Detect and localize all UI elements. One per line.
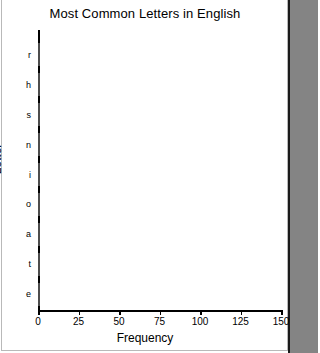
x-tick-label: 75: [154, 316, 165, 327]
x-tick: [160, 310, 162, 315]
x-tick-label: 50: [113, 316, 124, 327]
bar-row: r: [38, 43, 135, 66]
bar-row: h: [38, 73, 137, 96]
y-tick-label: o: [26, 199, 31, 209]
right-gutter[interactable]: [290, 0, 320, 353]
y-tick-label: n: [26, 140, 31, 150]
y-tick-label: h: [26, 80, 31, 90]
chart-title: Most Common Letters in English: [0, 6, 290, 21]
x-tick: [200, 310, 202, 315]
bar: [38, 163, 40, 186]
y-axis-title: Letter: [0, 144, 4, 175]
bar-row: s: [38, 103, 138, 126]
y-tick-label: t: [28, 259, 31, 269]
x-tick-label: 150: [273, 316, 290, 327]
x-tick-label: 125: [232, 316, 249, 327]
x-tick: [281, 310, 283, 315]
bar-row: n: [38, 133, 143, 156]
bar-chart: Most Common Letters in English Letter Fr…: [0, 0, 290, 353]
y-tick-label: i: [29, 170, 31, 180]
bar-row: a: [38, 223, 169, 246]
bar-row: i: [38, 163, 148, 186]
bar-row: t: [38, 253, 182, 276]
bar: [38, 283, 40, 306]
bar: [38, 43, 40, 66]
y-tick-label: a: [26, 229, 31, 239]
y-tick-label: s: [27, 110, 32, 120]
x-tick-label: 0: [35, 316, 41, 327]
x-axis-title: Frequency: [0, 331, 290, 345]
bar: [38, 253, 40, 276]
x-tick: [79, 310, 81, 315]
bar: [38, 193, 40, 216]
bar: [38, 133, 40, 156]
bar: [38, 223, 40, 246]
x-tick-label: 100: [192, 316, 209, 327]
bar: [38, 73, 40, 96]
x-tick: [38, 310, 40, 315]
x-tick-label: 25: [73, 316, 84, 327]
y-tick-label: r: [28, 50, 31, 60]
bar-row: o: [38, 193, 158, 216]
x-tick: [241, 310, 243, 315]
bar: [38, 103, 40, 126]
y-tick-label: e: [26, 289, 31, 299]
document-page: Most Common Letters in English Letter Fr…: [0, 0, 290, 353]
bar-row: e: [38, 283, 232, 306]
x-tick: [119, 310, 121, 315]
